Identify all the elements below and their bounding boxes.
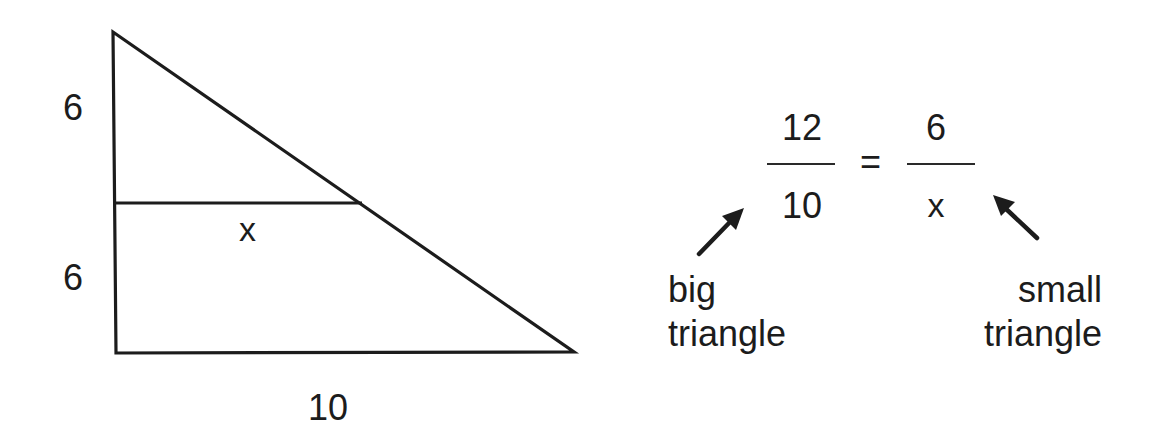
upper-side-label: 6 bbox=[63, 90, 83, 126]
base-label: 10 bbox=[308, 390, 348, 426]
arrow-up-right-icon bbox=[699, 208, 744, 254]
midline-label: x bbox=[239, 212, 256, 246]
big-caption-line2: triangle bbox=[668, 312, 786, 356]
small-caption-line1: small bbox=[984, 268, 1102, 312]
big-triangle-outline bbox=[113, 32, 574, 353]
small-caption-line2: triangle bbox=[984, 312, 1102, 356]
triangle-figure bbox=[0, 0, 1150, 448]
small-triangle-caption: small triangle bbox=[984, 268, 1102, 356]
left-denominator: 10 bbox=[762, 188, 842, 224]
big-triangle-caption: big triangle bbox=[668, 268, 786, 356]
diagram-canvas: 6 6 x 10 12 10 = 6 x big triangle small … bbox=[0, 0, 1150, 448]
equals-sign: = bbox=[860, 144, 881, 180]
left-numerator: 12 bbox=[762, 110, 842, 146]
right-denominator: x bbox=[896, 188, 976, 222]
lower-side-label: 6 bbox=[63, 260, 83, 296]
right-numerator: 6 bbox=[896, 110, 976, 146]
arrow-up-left-icon bbox=[993, 195, 1037, 238]
big-caption-line1: big bbox=[668, 268, 786, 312]
